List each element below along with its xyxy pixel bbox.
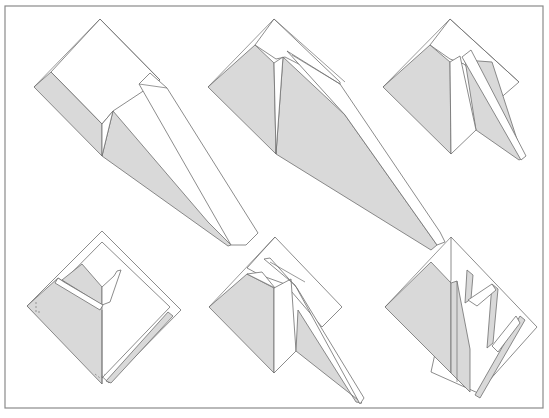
folding-diagram [0,0,549,418]
